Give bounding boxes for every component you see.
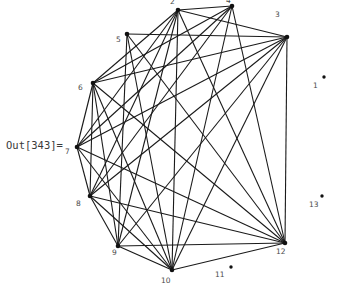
- graph-edge: [77, 37, 287, 147]
- graph-edge: [172, 10, 178, 270]
- graph-visualization: 12345678910111213: [0, 0, 341, 288]
- graph-vertex-label: 3: [275, 10, 280, 19]
- graph-edge: [172, 37, 287, 270]
- graph-edge: [90, 10, 178, 196]
- graph-edge: [77, 83, 93, 147]
- graph-edge: [178, 6, 232, 10]
- graph-vertex[interactable]: [91, 81, 96, 86]
- graph-vertex-label: 8: [76, 199, 81, 208]
- graph-edge: [93, 10, 178, 83]
- graph-vertex-label: 10: [161, 276, 171, 285]
- graph-edge: [77, 147, 172, 270]
- graph-edge: [178, 10, 287, 37]
- graph-vertex[interactable]: [285, 35, 290, 40]
- graph-vertex[interactable]: [88, 194, 93, 199]
- graph-edge: [178, 10, 285, 243]
- graph-vertex-label: 2: [170, 0, 175, 6]
- graph-edge: [285, 37, 287, 243]
- graph-vertex[interactable]: [322, 75, 325, 78]
- graph-vertex-label: 6: [78, 83, 83, 92]
- graph-vertex[interactable]: [229, 265, 232, 268]
- graph-vertex[interactable]: [176, 8, 181, 13]
- graph-vertex-label: 7: [65, 147, 70, 156]
- graph-vertex-label: 9: [112, 248, 117, 257]
- graph-edge: [77, 147, 90, 196]
- graph-vertex-label: 11: [215, 270, 225, 279]
- graph-edge: [127, 34, 287, 37]
- graph-vertex[interactable]: [283, 241, 288, 246]
- graph-vertex[interactable]: [320, 194, 323, 197]
- graph-vertex-label: 5: [116, 35, 121, 44]
- graph-vertex[interactable]: [170, 268, 175, 273]
- notebook-output-cell: Out[343]= 12345678910111213: [0, 0, 341, 288]
- graph-edges: [77, 6, 287, 270]
- graph-vertex-label: 4: [226, 0, 231, 5]
- graph-vertex-label: 13: [309, 200, 319, 209]
- graph-vertices: [75, 4, 326, 273]
- graph-vertex-label: 1: [313, 81, 318, 90]
- graph-edge: [172, 243, 285, 270]
- graph-edge: [118, 37, 287, 246]
- graph-vertex-label: 12: [276, 247, 286, 256]
- graph-vertex[interactable]: [75, 145, 80, 150]
- graph-vertex[interactable]: [125, 32, 130, 37]
